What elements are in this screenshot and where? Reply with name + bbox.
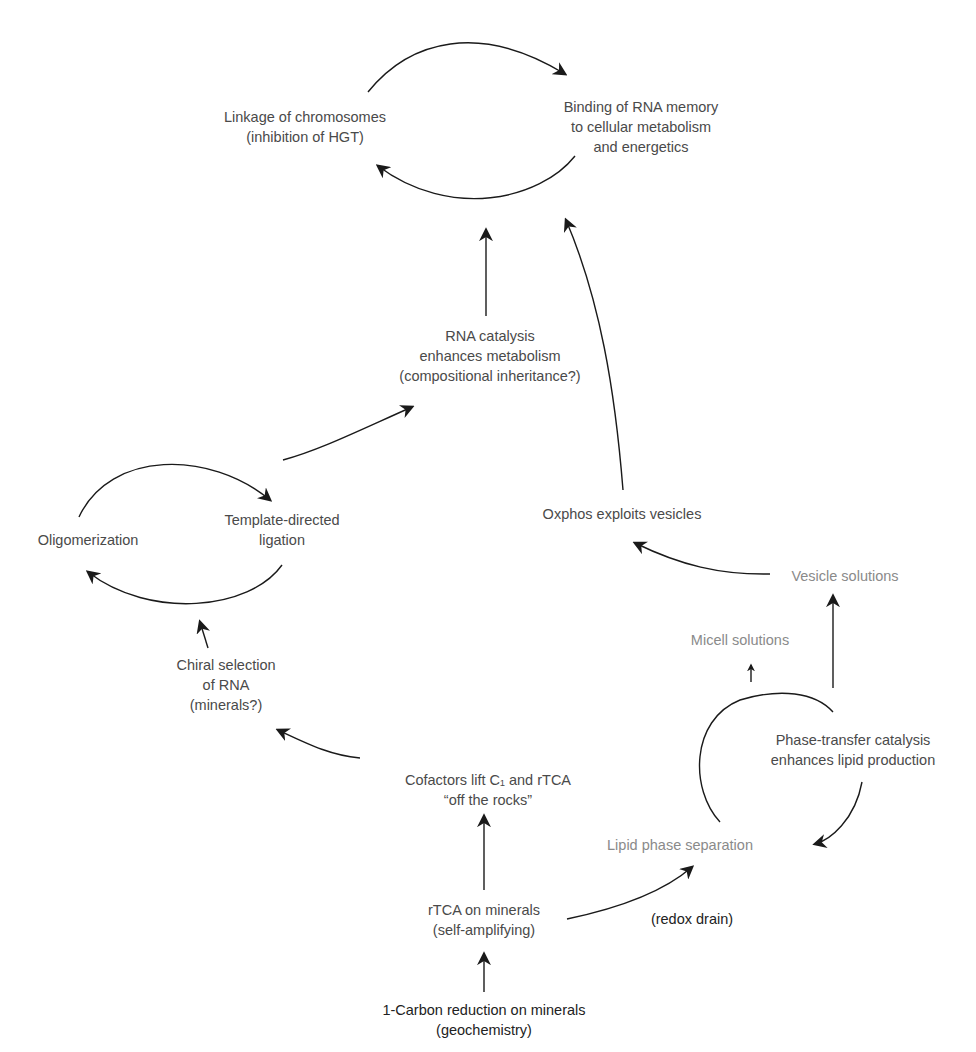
node-micell: Micell solutions bbox=[691, 630, 789, 650]
node-binding-line: to cellular metabolism bbox=[564, 117, 719, 137]
node-linkage: Linkage of chromosomes (inhibition of HG… bbox=[224, 107, 386, 147]
node-binding-line: Binding of RNA memory bbox=[564, 97, 719, 117]
node-cofactors-line: Cofactors lift C₁ and rTCA bbox=[405, 770, 571, 790]
node-rna-catalysis-line: (compositional inheritance?) bbox=[399, 366, 580, 386]
node-oligomerization-line: Oligomerization bbox=[38, 530, 139, 550]
node-template: Template-directed ligation bbox=[224, 510, 339, 550]
node-rtca-line: (self-amplifying) bbox=[428, 920, 540, 940]
node-rna-catalysis-line: enhances metabolism bbox=[399, 346, 580, 366]
node-phase-transfer-line: enhances lipid production bbox=[771, 750, 935, 770]
node-lipid-phase-line: Lipid phase separation bbox=[607, 835, 753, 855]
arrow-chiral-to-oligo bbox=[200, 622, 208, 648]
node-vesicle: Vesicle solutions bbox=[791, 566, 898, 586]
node-one-carbon: 1-Carbon reduction on minerals (geochemi… bbox=[382, 1000, 585, 1040]
node-oxphos: Oxphos exploits vesicles bbox=[543, 504, 702, 524]
node-template-line: Template-directed bbox=[224, 510, 339, 530]
arrow-phase-transfer-to-lipid bbox=[815, 782, 862, 844]
node-chiral: Chiral selection of RNA (minerals?) bbox=[176, 655, 275, 715]
diagram-canvas: Linkage of chromosomes (inhibition of HG… bbox=[0, 0, 976, 1052]
node-rna-catalysis: RNA catalysis enhances metabolism (compo… bbox=[399, 326, 580, 386]
node-rtca: rTCA on minerals (self-amplifying) bbox=[428, 900, 540, 940]
node-micell-line: Micell solutions bbox=[691, 630, 789, 650]
node-binding: Binding of RNA memory to cellular metabo… bbox=[564, 97, 719, 157]
node-lipid-phase: Lipid phase separation bbox=[607, 835, 753, 855]
node-chiral-line: (minerals?) bbox=[176, 695, 275, 715]
node-oligomerization: Oligomerization bbox=[38, 530, 139, 550]
arrow-linkage-to-binding bbox=[368, 43, 565, 92]
node-vesicle-line: Vesicle solutions bbox=[791, 566, 898, 586]
arrow-cofactors-to-chiral bbox=[278, 730, 360, 758]
edge-label-redox-drain-text: (redox drain) bbox=[651, 909, 733, 929]
node-chiral-line: of RNA bbox=[176, 675, 275, 695]
node-one-carbon-line: 1-Carbon reduction on minerals bbox=[382, 1000, 585, 1020]
node-binding-line: and energetics bbox=[564, 137, 719, 157]
node-linkage-line: (inhibition of HGT) bbox=[224, 127, 386, 147]
arrow-binding-to-linkage bbox=[378, 156, 575, 199]
arrows-layer bbox=[0, 0, 976, 1052]
node-one-carbon-line: (geochemistry) bbox=[382, 1020, 585, 1040]
node-rtca-line: rTCA on minerals bbox=[428, 900, 540, 920]
edge-label-redox-drain: (redox drain) bbox=[651, 909, 733, 929]
node-cofactors-line: “off the rocks” bbox=[405, 790, 571, 810]
arrow-vesicle-to-oxphos bbox=[635, 543, 770, 574]
node-oxphos-line: Oxphos exploits vesicles bbox=[543, 504, 702, 524]
arrow-template-to-oligo bbox=[88, 565, 282, 604]
arrow-template-to-rna bbox=[283, 407, 412, 460]
node-phase-transfer-line: Phase-transfer catalysis bbox=[771, 730, 935, 750]
node-chiral-line: Chiral selection bbox=[176, 655, 275, 675]
node-cofactors: Cofactors lift C₁ and rTCA “off the rock… bbox=[405, 770, 571, 810]
node-linkage-line: Linkage of chromosomes bbox=[224, 107, 386, 127]
node-phase-transfer: Phase-transfer catalysis enhances lipid … bbox=[771, 730, 935, 770]
node-rna-catalysis-line: RNA catalysis bbox=[399, 326, 580, 346]
node-template-line: ligation bbox=[224, 530, 339, 550]
